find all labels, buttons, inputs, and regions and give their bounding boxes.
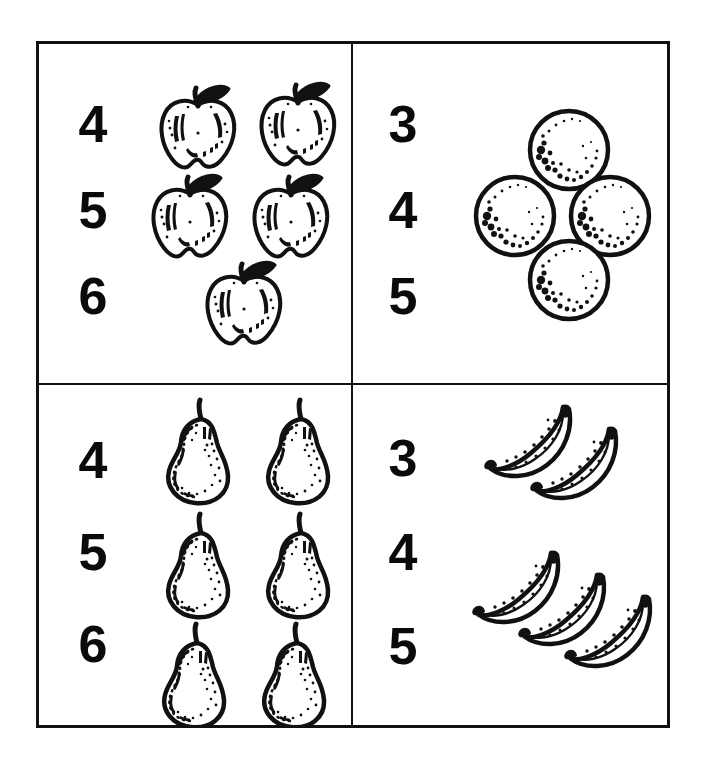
pear-icon <box>255 621 339 726</box>
panel-top-left[interactable]: 4 5 6 <box>39 44 353 385</box>
fruit-group-oranges <box>461 44 667 383</box>
pear-icon <box>259 511 343 623</box>
apple-icon <box>253 77 345 175</box>
fruit-group-bananas <box>461 385 667 726</box>
panel-bottom-right[interactable]: 3 4 5 <box>353 385 667 726</box>
panel-bottom-left[interactable]: 4 5 6 <box>39 385 353 726</box>
apple-icon <box>246 169 338 267</box>
numeral-option[interactable]: 4 <box>79 434 108 486</box>
numeral-option[interactable]: 3 <box>389 432 418 484</box>
numeral-option[interactable]: 5 <box>389 620 418 672</box>
numeral-option[interactable]: 4 <box>389 526 418 578</box>
orange-icon <box>525 236 613 324</box>
pear-icon <box>259 397 343 509</box>
numeral-choices-bottom-left: 4 5 6 <box>39 385 147 726</box>
numeral-option[interactable]: 5 <box>79 184 108 236</box>
numeral-option[interactable]: 3 <box>389 98 418 150</box>
numeral-choices-bottom-right: 3 4 5 <box>353 385 453 726</box>
numeral-option[interactable]: 6 <box>79 270 108 322</box>
pear-icon <box>159 511 243 623</box>
banana-icon <box>553 589 667 687</box>
panel-grid: 4 5 6 <box>39 44 667 725</box>
numeral-option[interactable]: 5 <box>389 270 418 322</box>
numeral-option[interactable]: 6 <box>79 618 108 670</box>
banana-icon <box>519 421 641 519</box>
worksheet-frame: 4 5 6 <box>36 41 670 728</box>
fruit-group-pears <box>143 385 351 726</box>
apple-icon <box>145 169 237 267</box>
apple-icon <box>199 256 291 354</box>
panel-top-right[interactable]: 3 4 5 <box>353 44 667 385</box>
fruit-group-apples <box>143 44 351 383</box>
numeral-option[interactable]: 4 <box>79 98 108 150</box>
numeral-choices-top-left: 4 5 6 <box>39 44 147 383</box>
pear-icon <box>155 621 239 726</box>
apple-icon <box>153 80 245 178</box>
numeral-option[interactable]: 5 <box>79 526 108 578</box>
pear-icon <box>159 397 243 509</box>
numeral-option[interactable]: 4 <box>389 184 418 236</box>
numeral-choices-top-right: 3 4 5 <box>353 44 453 383</box>
